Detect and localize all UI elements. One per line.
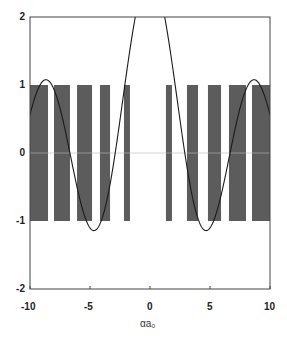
y-tick-label: 1 — [19, 79, 25, 90]
x-tick-label: 0 — [147, 301, 153, 312]
y-tick-label: -2 — [16, 283, 25, 294]
y-tick-label: 2 — [19, 11, 25, 22]
x-tick-label: 5 — [207, 301, 213, 312]
x-tick-label: -5 — [84, 301, 93, 312]
x-tick-label: -10 — [21, 301, 35, 312]
x-tick-label: 10 — [264, 301, 275, 312]
x-axis-title: αa₀ — [140, 318, 156, 329]
y-tick-label: 0 — [19, 147, 25, 158]
y-tick-label: -1 — [16, 215, 25, 226]
plot-area — [0, 0, 287, 354]
